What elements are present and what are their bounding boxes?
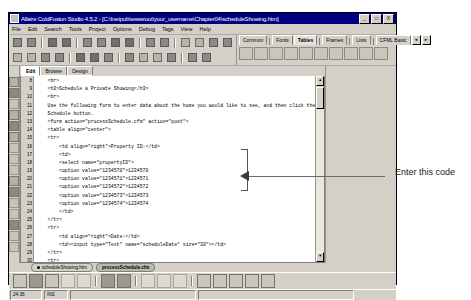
tag-button-table-header-icon[interactable]	[284, 47, 298, 60]
anchor-icon[interactable]	[123, 51, 136, 64]
tab-edit[interactable]: Edit	[21, 66, 40, 76]
code-line[interactable]: <tr>	[36, 257, 315, 262]
save-all-icon[interactable]	[60, 36, 73, 49]
maximize-button[interactable]: □	[371, 14, 382, 24]
debug-icon[interactable]	[25, 51, 38, 64]
find-icon[interactable]	[88, 51, 101, 64]
menu-item-tools[interactable]: Tools	[69, 26, 82, 32]
tag-button-table-cell-icon[interactable]	[269, 47, 283, 60]
doc-tab-processschedule[interactable]: processSchedule.cfm	[96, 263, 156, 272]
tabs-scroll-right-icon[interactable]: ►	[422, 35, 431, 45]
vtool-link-icon[interactable]	[9, 88, 19, 98]
code-line[interactable]: <br>	[36, 77, 315, 85]
tab-design[interactable]: Design	[67, 66, 93, 76]
code-line[interactable]: </td>	[36, 208, 315, 216]
code-text-area[interactable]: <br> <h3>Schedule a Private Showing</h3>…	[34, 76, 315, 262]
code-line[interactable]: </tr>	[36, 249, 315, 257]
code-editor[interactable]: 8910111213141516171819202122232425262728…	[20, 76, 325, 263]
menu-item-tags[interactable]: Tags	[162, 26, 174, 32]
code-line[interactable]: <td><input type="Text" name="scheduleDat…	[36, 241, 315, 249]
vtool-span-icon[interactable]	[9, 209, 19, 219]
help-icon[interactable]	[200, 51, 213, 64]
table-icon[interactable]	[151, 51, 164, 64]
validate-icon[interactable]	[221, 36, 234, 49]
window-controls[interactable]: _ □ X	[359, 14, 394, 24]
code-line[interactable]: <tr>	[36, 134, 315, 142]
resource-tree-icon[interactable]	[29, 274, 43, 288]
code-line[interactable]: <td align="right">Date:</td>	[36, 233, 315, 241]
code-line[interactable]: <td align="right">Property ID:</td>	[36, 143, 315, 151]
copy-icon[interactable]	[109, 36, 122, 49]
code-line[interactable]: <td>	[36, 151, 315, 159]
tag-button-tbody-icon[interactable]	[344, 47, 358, 60]
vtool-cfset-icon[interactable]	[9, 242, 19, 252]
save-icon[interactable]	[46, 36, 59, 49]
tag-category-tabs[interactable]: Common Fonts Tables Frames Lists CFML Ba…	[237, 35, 431, 45]
vtool-comment-icon[interactable]	[9, 99, 19, 109]
code-line[interactable]: <h3>Schedule a Private Showing</h3>	[36, 85, 315, 93]
vtool-cfquery-icon[interactable]	[9, 220, 19, 230]
menu-item-debug[interactable]: Debug	[139, 26, 155, 32]
code-line[interactable]: <option value="1234573">1234573	[36, 192, 315, 200]
menu-item-options[interactable]: Options	[113, 26, 132, 32]
snippets-icon[interactable]	[45, 274, 59, 288]
code-line[interactable]: </tr>	[36, 216, 315, 224]
italic-icon[interactable]	[53, 51, 66, 64]
code-line[interactable]: <option value="1234574">1234574	[36, 200, 315, 208]
spellcheck-icon[interactable]	[207, 36, 220, 49]
project-icon[interactable]	[186, 51, 199, 64]
code-line[interactable]: <table align="center">	[36, 126, 315, 134]
step-out-icon[interactable]	[173, 274, 187, 288]
step-over-icon[interactable]	[157, 274, 171, 288]
indent-icon[interactable]	[261, 274, 275, 288]
menu-item-search[interactable]: Search	[44, 26, 61, 32]
file-explorer-icon[interactable]	[13, 274, 27, 288]
align-center-icon[interactable]	[213, 274, 227, 288]
standard-toolbar-row[interactable]	[9, 35, 236, 50]
tab-lists[interactable]: Lists	[352, 35, 370, 45]
outdent-icon[interactable]	[245, 274, 259, 288]
code-line[interactable]: <option value="1234570">1234570	[36, 167, 315, 175]
editor-view-tabs[interactable]: Edit Browse Design	[20, 66, 325, 76]
site-view-icon[interactable]	[77, 274, 91, 288]
menu-item-help[interactable]: Help	[199, 26, 210, 32]
play-icon[interactable]	[101, 274, 115, 288]
step-into-icon[interactable]	[141, 274, 155, 288]
vtool-input-icon[interactable]	[9, 132, 19, 142]
undo-icon[interactable]	[144, 36, 157, 49]
menu-item-file[interactable]: File	[12, 26, 21, 32]
menu-bar[interactable]: File Edit Search Tools Project Options D…	[9, 24, 396, 35]
redo-icon[interactable]	[158, 36, 171, 49]
editor-vertical-scrollbar[interactable]: ▲ ▼	[315, 76, 324, 262]
close-button[interactable]: X	[383, 14, 394, 24]
tag-button-table-row-icon[interactable]	[254, 47, 268, 60]
menu-item-project[interactable]: Project	[89, 26, 106, 32]
cut-icon[interactable]	[95, 36, 108, 49]
open-file-icon[interactable]	[25, 36, 38, 49]
bookmark-icon[interactable]	[74, 51, 87, 64]
tag-button-table-icon[interactable]	[239, 47, 253, 60]
code-line[interactable]: <br>	[36, 93, 315, 101]
stop-icon[interactable]	[117, 274, 131, 288]
doc-tab-scheduleshowing[interactable]: scheduleShowing.htm	[31, 263, 93, 272]
minimize-button[interactable]: _	[359, 14, 370, 24]
tab-frames[interactable]: Frames	[322, 35, 347, 45]
tag-button-caption-icon[interactable]	[299, 47, 313, 60]
tag-button-merge-icon[interactable]	[374, 47, 388, 60]
tabs-scroll-left-icon[interactable]: ◄	[412, 35, 421, 45]
tag-button-tfoot-icon[interactable]	[359, 47, 373, 60]
code-line[interactable]: <option value="1234572">1234572	[36, 183, 315, 191]
menu-item-edit[interactable]: Edit	[28, 26, 37, 32]
tag-button-thead-icon[interactable]	[329, 47, 343, 60]
print-icon[interactable]	[81, 36, 94, 49]
tab-tables[interactable]: Tables	[294, 35, 317, 45]
tab-common[interactable]: Common	[239, 35, 267, 45]
document-tabs[interactable]: scheduleShowing.htm processSchedule.cfm	[9, 263, 396, 272]
replace-icon[interactable]	[102, 51, 115, 64]
scroll-down-icon[interactable]: ▼	[316, 252, 324, 262]
menu-item-view[interactable]: View	[181, 26, 193, 32]
align-right-icon[interactable]	[229, 274, 243, 288]
new-file-icon[interactable]	[11, 36, 24, 49]
scroll-track[interactable]	[316, 109, 324, 252]
vtool-textarea-icon[interactable]	[9, 154, 19, 164]
